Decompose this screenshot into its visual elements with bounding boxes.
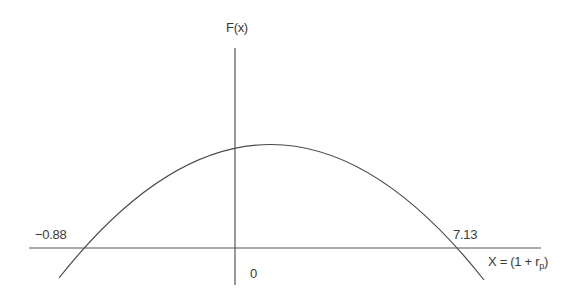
right-root-label: 7.13: [453, 227, 477, 242]
chart-canvas: [0, 0, 569, 303]
x-axis-label-subscript: p: [539, 261, 544, 271]
x-axis-label-main: X = (1 + r: [488, 254, 539, 269]
origin-label: 0: [250, 266, 257, 281]
x-axis-label: X = (1 + rp): [488, 254, 548, 269]
x-axis-label-close: ): [544, 254, 548, 269]
parabola-curve: [59, 144, 484, 280]
left-root-label: −0.88: [35, 227, 66, 242]
y-axis-label: F(x): [226, 20, 248, 35]
